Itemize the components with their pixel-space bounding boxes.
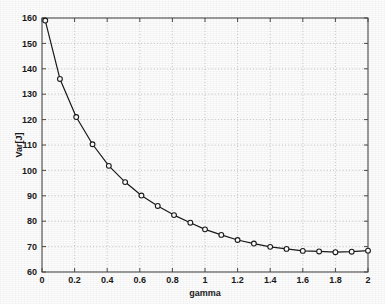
- x-tick-label: 2: [365, 275, 370, 285]
- data-point-marker: [252, 241, 257, 246]
- data-point-marker: [58, 77, 63, 82]
- data-point-marker: [268, 244, 273, 249]
- data-point-marker: [235, 238, 240, 243]
- y-tick-label: 90: [27, 191, 37, 201]
- x-tick-label: 1.8: [329, 275, 342, 285]
- data-point-marker: [74, 115, 79, 120]
- x-axis-label: gamma: [189, 288, 222, 298]
- x-tick-label: 1: [202, 275, 207, 285]
- data-point-marker: [300, 249, 305, 254]
- data-series: [43, 18, 371, 254]
- data-point-marker: [43, 18, 48, 23]
- data-point-marker: [349, 249, 354, 254]
- data-point-marker: [203, 227, 208, 232]
- x-tick-label: 0.2: [68, 275, 81, 285]
- y-tick-label: 110: [22, 140, 37, 150]
- data-point-marker: [366, 248, 371, 253]
- data-point-marker: [172, 213, 177, 218]
- x-tick-label: 1.4: [264, 275, 277, 285]
- data-point-marker: [139, 193, 144, 198]
- y-tick-label: 60: [27, 267, 37, 277]
- chart-plot: 00.20.40.60.811.21.41.61.826070809010011…: [0, 0, 385, 304]
- data-point-marker: [219, 233, 224, 238]
- figure-canvas: 00.20.40.60.811.21.41.61.826070809010011…: [0, 0, 385, 304]
- data-point-marker: [284, 246, 289, 251]
- data-point-marker: [123, 180, 128, 185]
- x-tick-label: 1.6: [297, 275, 310, 285]
- y-tick-label: 160: [22, 13, 37, 23]
- data-point-marker: [155, 204, 160, 209]
- y-tick-label: 140: [22, 64, 37, 74]
- y-tick-label: 150: [22, 39, 37, 49]
- x-tick-label: 0.8: [166, 275, 179, 285]
- y-axis-label: Var[J]: [14, 132, 24, 157]
- x-tick-label: 0: [39, 275, 44, 285]
- data-point-marker: [333, 250, 338, 255]
- y-tick-label: 80: [27, 216, 37, 226]
- x-tick-label: 0.4: [101, 275, 114, 285]
- data-point-marker: [188, 220, 193, 225]
- x-tick-label: 0.6: [134, 275, 147, 285]
- y-tick-label: 70: [27, 242, 37, 252]
- data-point-marker: [317, 249, 322, 254]
- data-point-marker: [106, 163, 111, 168]
- y-tick-label: 130: [22, 89, 37, 99]
- y-tick-label: 100: [22, 166, 37, 176]
- data-point-marker: [90, 142, 95, 147]
- y-tick-label: 120: [22, 115, 37, 125]
- x-tick-label: 1.2: [231, 275, 244, 285]
